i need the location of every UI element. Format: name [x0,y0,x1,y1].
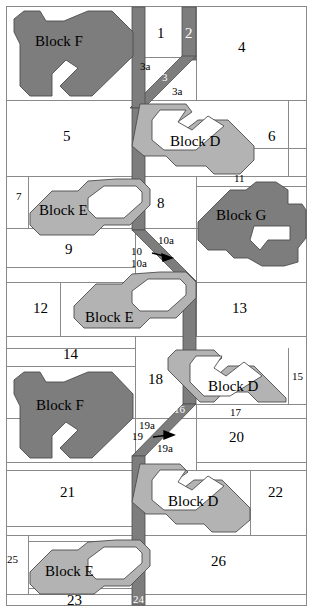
arrow-19-head [164,431,174,439]
region-label-2: 2 [185,26,193,41]
block-label-block-g: Block G [216,208,266,223]
region-label-3a-upper: 3a [140,61,150,72]
bar-upper-vertical [132,7,145,108]
region-label-10a-lower: 10a [131,258,147,269]
region-label-19a-upper: 19a [139,420,155,431]
region-label-5: 5 [63,129,71,144]
region-label-18: 18 [148,372,163,387]
block-f-top-shape [14,11,133,96]
region-label-19a-lower: 19a [157,443,173,454]
block-label-block-e-upper: Block E [39,203,88,218]
region-label-11: 11 [234,173,245,184]
region-label-13: 13 [232,301,247,316]
region-label-26: 26 [211,554,226,569]
region-label-10a-upper: 10a [158,235,174,246]
region-label-19: 19 [132,431,143,442]
block-label-block-d-lower: Block D [168,494,218,509]
region-label-4: 4 [238,40,246,55]
region-label-10: 10 [131,246,142,257]
block-label-block-e-lower: Block E [45,564,94,579]
region-label-8: 8 [157,196,165,211]
region-label-21: 21 [60,485,75,500]
block-layout-figure: Block F Block D Block E Block G Block E … [0,0,313,614]
region-label-25: 25 [7,554,18,565]
region-label-3a-lower: 3a [172,86,182,97]
region-label-20: 20 [229,430,244,445]
region-label-1: 1 [157,26,165,41]
region-label-22: 22 [268,485,283,500]
region-label-15: 15 [292,371,303,382]
region-label-6: 6 [268,129,276,144]
region-label-23: 23 [67,593,82,608]
block-f-lower-shape [14,372,133,458]
block-label-block-e-mid: Block E [85,310,134,325]
region-label-24: 24 [133,594,144,605]
block-label-block-f-lower: Block F [36,398,84,413]
region-label-3: 3 [162,72,168,83]
block-label-block-f-top: Block F [35,34,83,49]
region-label-17: 17 [230,407,241,418]
region-label-16: 16 [174,404,185,415]
block-label-block-d-mid: Block D [208,379,258,394]
region-label-9: 9 [65,242,73,257]
block-label-block-d-upper: Block D [170,134,220,149]
block-g-shape [198,182,306,266]
region-label-14: 14 [63,347,78,362]
region-label-7: 7 [16,191,22,202]
region-label-12: 12 [33,301,48,316]
